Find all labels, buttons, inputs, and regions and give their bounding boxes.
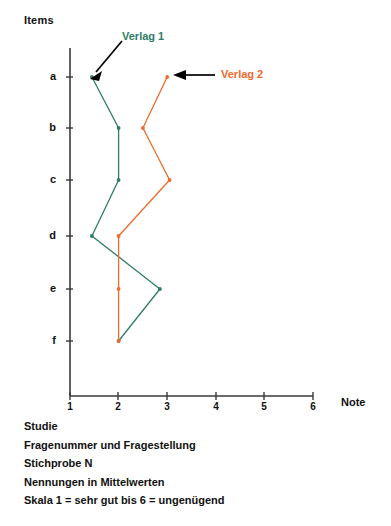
y-tick-label-c: c xyxy=(40,173,56,185)
series-verlag-1-line xyxy=(92,77,160,341)
annotation-arrow-verlag-1 xyxy=(90,41,122,81)
series-verlag-1-markers xyxy=(90,75,162,343)
caption-line-3: Stichprobe N xyxy=(24,454,384,473)
data-point-verlag-2-a xyxy=(165,75,169,79)
x-tick-label-1: 1 xyxy=(60,401,80,412)
arrow-head-verlag-2 xyxy=(173,70,186,80)
data-point-verlag-2-d xyxy=(117,234,121,238)
y-tick-label-b: b xyxy=(40,121,56,133)
data-point-verlag-2-e xyxy=(117,287,121,291)
caption-line-2: Fragenummer und Fragestellung xyxy=(24,436,384,455)
annotation-arrow-verlag-2 xyxy=(173,70,215,80)
data-point-verlag-1-d xyxy=(90,234,94,238)
axis-lines xyxy=(70,48,313,396)
data-point-verlag-1-e xyxy=(158,287,162,291)
arrow-shaft-verlag-1 xyxy=(96,41,122,72)
series-verlag-2-line xyxy=(119,77,170,341)
y-tick-label-e: e xyxy=(40,282,56,294)
y-tick-label-f: f xyxy=(40,334,56,346)
data-point-verlag-1-b xyxy=(117,126,121,130)
x-tick-label-3: 3 xyxy=(157,401,177,412)
series-verlag-1 xyxy=(90,75,162,343)
data-point-verlag-2-f xyxy=(117,339,121,343)
y-tick-label-d: d xyxy=(40,229,56,241)
series-verlag-2-markers xyxy=(117,75,172,343)
caption-line-5: Skala 1 = sehr gut bis 6 = ungenügend xyxy=(24,491,384,510)
data-point-verlag-1-c xyxy=(117,178,121,182)
caption-block: Studie Fragenummer und Fragestellung Sti… xyxy=(24,417,384,510)
x-tick-label-6: 6 xyxy=(303,401,323,412)
series-verlag-2 xyxy=(117,75,172,343)
caption-line-4: Nennungen in Mittelwerten xyxy=(24,473,384,492)
plot-area xyxy=(0,0,391,430)
series-label-verlag-2: Verlag 2 xyxy=(221,68,263,80)
x-tick-label-5: 5 xyxy=(254,401,274,412)
x-tick-label-2: 2 xyxy=(108,401,128,412)
data-point-verlag-2-c xyxy=(168,178,172,182)
data-point-verlag-2-b xyxy=(141,126,145,130)
y-tick-label-a: a xyxy=(40,70,56,82)
chart-container: Items Note xyxy=(0,0,391,526)
series-label-verlag-1: Verlag 1 xyxy=(122,30,164,42)
caption-line-1: Studie xyxy=(24,417,384,436)
x-tick-label-4: 4 xyxy=(206,401,226,412)
